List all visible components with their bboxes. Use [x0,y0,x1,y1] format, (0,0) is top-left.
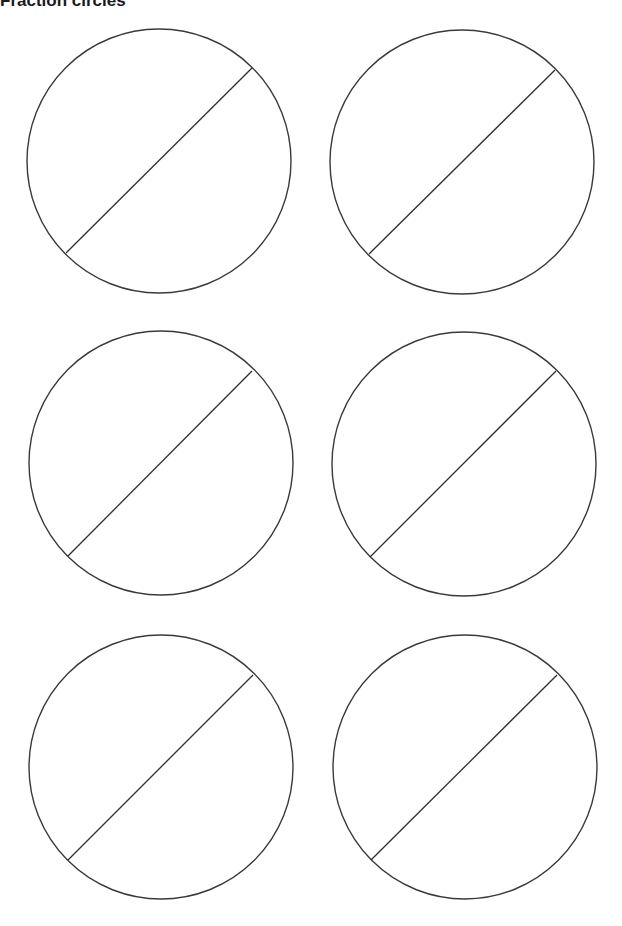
half-divider-line [66,68,252,253]
circle-outline [332,332,596,596]
fraction-circle-bottom-left [29,635,293,899]
fraction-circle-middle-right [332,332,596,596]
fraction-circle-top-right [330,30,594,294]
half-divider-line [369,70,555,254]
fraction-circle-top-left [27,29,291,293]
fraction-circle-bottom-right [333,635,597,899]
circles-sheet [0,0,622,926]
fraction-circle-middle-left [29,331,293,595]
half-divider-line [68,371,252,556]
half-divider-line [370,371,556,557]
half-divider-line [371,675,557,860]
half-divider-line [68,675,253,860]
